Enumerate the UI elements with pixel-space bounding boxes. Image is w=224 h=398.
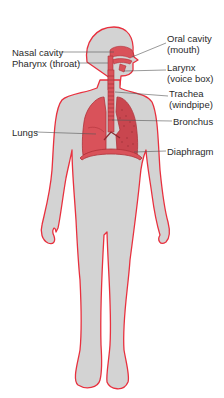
label-larynx-line1: Larynx [167,62,213,73]
label-diaphragm: Diaphragm [167,146,213,157]
label-oral-cavity-line2: (mouth) [167,44,212,55]
trachea [108,70,114,132]
label-larynx-line2: (voice box) [167,73,213,84]
label-nasal-cavity: Nasal cavity [12,47,63,58]
label-pharynx: Pharynx (throat) [12,58,80,69]
label-larynx: Larynx (voice box) [167,62,213,84]
label-lungs: Lungs [12,127,38,138]
label-oral-cavity-line1: Oral cavity [167,33,212,44]
label-trachea-line1: Trachea [169,88,213,99]
body-silhouette [41,27,169,389]
label-bronchus: Bronchus [173,116,213,127]
label-oral-cavity: Oral cavity (mouth) [167,33,212,55]
label-trachea: Trachea (windpipe) [169,88,213,110]
label-trachea-line2: (windpipe) [169,99,213,110]
